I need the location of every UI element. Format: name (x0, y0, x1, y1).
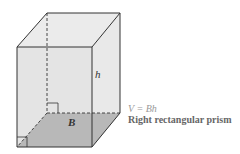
prism-diagram (0, 0, 240, 154)
base-label: B (68, 116, 75, 128)
volume-formula: V = Bh (128, 103, 157, 114)
figure-caption: Right rectangular prism (128, 114, 232, 125)
height-label: h (95, 68, 101, 80)
